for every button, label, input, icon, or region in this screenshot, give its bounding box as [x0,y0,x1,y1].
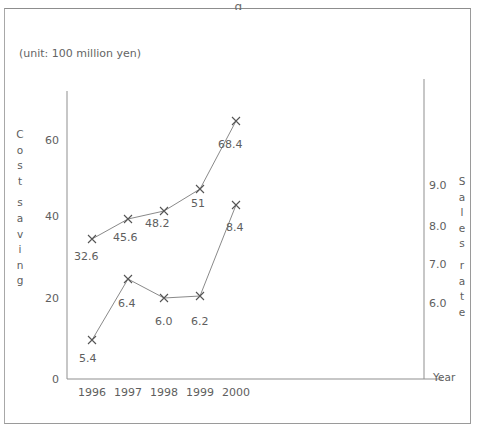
point-label-cost-saving-1999: 51 [191,197,205,210]
x-axis-tick-1998: 1998 [144,386,184,399]
left-axis-tick-20: 20 [35,292,59,305]
figure-frame: g (unit: 100 million yen) [4,8,471,424]
x-axis-tick-1997: 1997 [108,386,148,399]
point-label-sales-rate-1999: 6.2 [191,315,209,328]
right-axis-title-letter: l [455,205,469,221]
left-axis-title-letter: a [13,211,27,227]
right-axis-title-letter: e [455,305,469,321]
point-label-cost-saving-1997: 45.6 [113,231,138,244]
right-axis-tick-6: 6.0 [429,297,457,310]
chart-plot-area [5,9,472,425]
point-label-sales-rate-2000: 8.4 [226,221,244,234]
right-axis-title-letter: r [455,258,469,274]
right-axis-title: S a l e s r a t e [455,174,469,320]
left-axis-title-letter: C [13,127,27,143]
right-axis-title-letter: e [455,221,469,237]
point-label-cost-saving-1998: 48.2 [145,217,170,230]
right-axis-title-letter: t [455,289,469,305]
left-axis-title-letter: n [13,258,27,274]
right-axis-title-letter: s [455,236,469,252]
left-axis-tick-0: 0 [35,373,59,386]
right-axis-title-letter: a [455,274,469,290]
point-label-sales-rate-1996: 5.4 [79,352,97,365]
right-axis-tick-9: 9.0 [429,179,457,192]
left-axis-title-letter: v [13,227,27,243]
left-axis-title-letter: s [13,158,27,174]
point-label-sales-rate-1997: 6.4 [118,297,136,310]
x-axis-tick-2000: 2000 [216,386,256,399]
left-axis-tick-60: 60 [35,134,59,147]
right-axis-tick-7: 7.0 [429,258,457,271]
x-axis-unit-label: Year [433,371,455,383]
left-axis-title-letter: o [13,143,27,159]
right-axis-title-letter: a [455,190,469,206]
point-label-sales-rate-1998: 6.0 [155,315,173,328]
left-axis-tick-40: 40 [35,210,59,223]
left-axis-title-letter: g [13,273,27,289]
point-label-cost-saving-2000: 68.4 [218,138,243,151]
left-axis-title-letter: i [13,242,27,258]
figure-root: g (unit: 100 million yen) [0,0,479,434]
right-axis-title-letter: S [455,174,469,190]
point-label-cost-saving-1996: 32.6 [74,250,99,263]
left-axis-title: C o s t s a v i n g [13,127,27,289]
left-axis-title-letter: s [13,195,27,211]
left-axis-title-letter: t [13,174,27,190]
x-axis-tick-1996: 1996 [72,386,112,399]
x-axis-tick-1999: 1999 [180,386,220,399]
right-axis-tick-8: 8.0 [429,220,457,233]
